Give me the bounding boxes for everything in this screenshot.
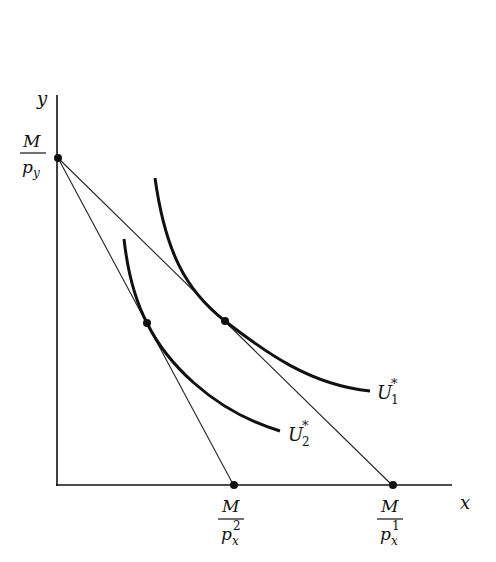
- tangency-point-u2: [143, 319, 151, 327]
- svg-text:x: x: [232, 534, 239, 548]
- svg-text:1: 1: [391, 393, 399, 407]
- svg-text:2: 2: [302, 435, 310, 449]
- x-intercept-1-point: [389, 481, 397, 489]
- x-intercept-2-label: M p x 2: [218, 496, 244, 548]
- svg-text:p: p: [380, 524, 391, 544]
- svg-text:y: y: [32, 166, 40, 180]
- u1-label: U 1 *: [377, 376, 399, 407]
- svg-text:*: *: [391, 376, 398, 391]
- x-intercept-2-point: [230, 481, 238, 489]
- svg-text:x: x: [391, 534, 398, 548]
- svg-text:M: M: [22, 131, 41, 151]
- y-intercept-point: [54, 154, 62, 162]
- svg-text:M: M: [221, 496, 240, 516]
- y-axis-label: y: [36, 88, 48, 109]
- svg-text:*: *: [302, 418, 309, 433]
- u2-label: U 2 *: [288, 418, 310, 449]
- indifference-curve-u2: [124, 239, 280, 431]
- tangency-point-u1: [221, 317, 229, 325]
- svg-text:2: 2: [233, 519, 241, 533]
- x-intercept-1-label: M p x 1: [377, 496, 403, 548]
- svg-text:p: p: [221, 524, 232, 544]
- diagram-canvas: y x M p y M p x 2 M p x 1 U 1 * U 2 *: [0, 0, 496, 562]
- svg-text:p: p: [22, 157, 33, 177]
- svg-text:M: M: [380, 496, 399, 516]
- y-intercept-label: M p y: [20, 131, 46, 180]
- svg-text:1: 1: [392, 519, 400, 533]
- x-axis-label: x: [460, 492, 470, 513]
